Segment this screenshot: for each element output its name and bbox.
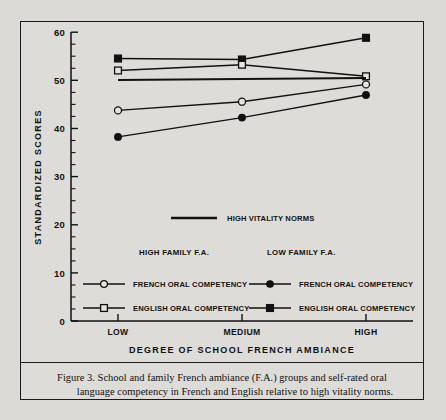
legend-label-french-high-family: FRENCH ORAL COMPETENCY [133, 280, 247, 289]
legend-marker-open-square [101, 305, 108, 312]
figure-caption: Figure 3. School and family French ambia… [21, 366, 423, 398]
legend-group-headers: HIGH FAMILY F.A. LOW FAMILY F.A. [139, 248, 336, 257]
series-french-high-family [115, 81, 370, 114]
y-tick-label-40: 40 [54, 123, 65, 134]
x-axis-title: DEGREE OF SCHOOL FRENCH AMBIANCE [129, 345, 355, 355]
data-point-marker [115, 107, 122, 114]
y-axis-title: STANDARDIZED SCORES [33, 109, 43, 245]
caption-separator [21, 362, 423, 363]
data-point-marker [115, 67, 122, 74]
x-tick-label-low: LOW [107, 327, 129, 337]
y-tick-label-30: 30 [54, 171, 65, 182]
x-tick-label-medium: MEDIUM [223, 327, 260, 337]
caption-line-1: Figure 3. School and family French ambia… [57, 372, 387, 383]
y-axis-major-ticks [71, 32, 78, 321]
y-tick-label-60: 60 [54, 27, 65, 38]
legend-header-low-family: LOW FAMILY F.A. [267, 248, 336, 257]
legend-marker-filled-square [267, 305, 274, 312]
data-point-marker [115, 134, 122, 141]
series-english-high-family [115, 61, 370, 79]
y-tick-label-0: 0 [60, 316, 65, 327]
line-chart: 60 50 40 30 20 10 0 LOW MEDIUM HIGH DEGR… [21, 22, 423, 362]
legend-label-high-vitality-norms: HIGH VITALITY NORMS [227, 214, 314, 223]
y-tick-label-20: 20 [54, 219, 65, 230]
figure-root: 60 50 40 30 20 10 0 LOW MEDIUM HIGH DEGR… [0, 0, 446, 420]
legend-label-french-low-family: FRENCH ORAL COMPETENCY [299, 280, 413, 289]
data-point-marker [239, 114, 246, 121]
plot-area: 60 50 40 30 20 10 0 LOW MEDIUM HIGH DEGR… [21, 22, 423, 362]
data-point-marker [239, 61, 246, 68]
data-point-marker [363, 92, 370, 99]
x-tick-label-high: HIGH [354, 327, 377, 337]
y-tick-label-10: 10 [54, 268, 65, 279]
legend-label-english-low-family: ENGLISH ORAL COMPETENCY [299, 304, 415, 313]
data-point-marker [239, 98, 246, 105]
data-point-marker [115, 55, 122, 62]
legend-row-french: FRENCH ORAL COMPETENCY FRENCH ORAL COMPE… [83, 280, 413, 289]
x-axis-ticks [118, 314, 366, 321]
legend-row-english: ENGLISH ORAL COMPETENCY ENGLISH ORAL COM… [83, 304, 415, 313]
data-point-marker [363, 34, 370, 41]
legend-header-high-family: HIGH FAMILY F.A. [139, 248, 209, 257]
y-tick-label-50: 50 [54, 75, 65, 86]
legend-marker-open-circle [101, 281, 108, 288]
series-english-low-family [115, 34, 370, 62]
series-high-vitality-norms [118, 78, 366, 80]
legend-label-english-high-family: ENGLISH ORAL COMPETENCY [133, 304, 249, 313]
caption-line-2: language competency in French and Englis… [31, 385, 413, 399]
legend-marker-filled-circle [267, 281, 273, 287]
legend-norms: HIGH VITALITY NORMS [171, 214, 314, 223]
data-point-marker [363, 81, 370, 88]
figure-frame: 60 50 40 30 20 10 0 LOW MEDIUM HIGH DEGR… [20, 21, 424, 400]
